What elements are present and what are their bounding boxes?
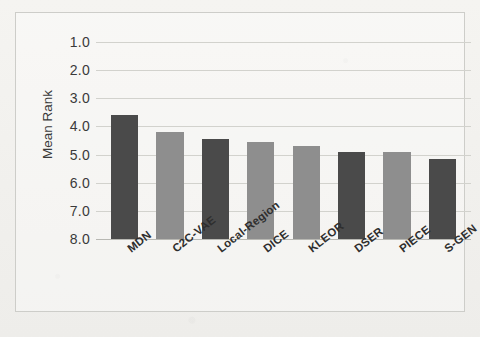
bar-slot [329, 42, 374, 239]
plot-area [96, 42, 471, 239]
x-label-slot: MDN [102, 241, 147, 321]
y-tick-label: 3.0 [52, 90, 90, 106]
y-axis-tick-labels: 1.02.03.04.05.06.07.08.0 [44, 42, 90, 239]
y-tick-label: 4.0 [52, 118, 90, 134]
bar-slot [374, 42, 419, 239]
cropped-title-text [0, 0, 480, 12]
x-label-slot: S-GEN [420, 241, 465, 321]
bar-slot [284, 42, 329, 239]
y-tick-label: 7.0 [52, 203, 90, 219]
y-tick-label: 8.0 [52, 231, 90, 247]
bar-slot [193, 42, 238, 239]
x-label-slot: C2C-VAE [147, 241, 192, 321]
bar-piece [383, 152, 410, 239]
x-label-slot: KLEOR [284, 241, 329, 321]
bar-mdn [111, 115, 138, 239]
y-tick-label: 1.0 [52, 34, 90, 50]
x-label-slot: DSER [329, 241, 374, 321]
bar-series [96, 42, 471, 239]
bar-slot [102, 42, 147, 239]
bar-slot [147, 42, 192, 239]
bar-slot [420, 42, 465, 239]
x-label-slot: DICE [238, 241, 283, 321]
bar-s-gen [429, 159, 456, 239]
y-tick-label: 6.0 [52, 175, 90, 191]
x-label-slot: Local-Region [193, 241, 238, 321]
y-tick-label: 5.0 [52, 147, 90, 163]
bar-c2c-vae [156, 132, 183, 239]
y-tick-label: 2.0 [52, 62, 90, 78]
x-axis-tick-labels: MDNC2C-VAELocal-RegionDICEKLEORDSERPIECE… [96, 241, 471, 321]
chart-frame: Mean Rank 1.02.03.04.05.06.07.08.0 MDNC2… [15, 12, 465, 312]
bar-kleor [293, 146, 320, 239]
x-label-slot: PIECE [374, 241, 419, 321]
